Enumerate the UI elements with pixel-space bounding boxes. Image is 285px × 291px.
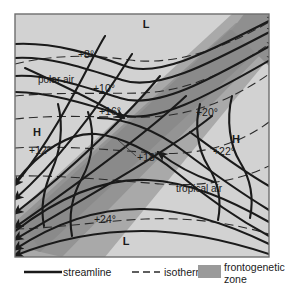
isotherm-24-label: +24°	[94, 213, 116, 225]
isotherm-label: +18	[137, 151, 155, 163]
legend-frontogenetic-label-line2: zone	[224, 273, 247, 285]
legend-frontogenetic-label-line1: frontogenetic	[224, 261, 285, 273]
isotherm-12-label: +12°	[29, 144, 51, 156]
legend-item-frontogenetic-zone: frontogenetic zone	[198, 261, 285, 285]
isotherm-label: +12°	[29, 144, 51, 156]
diagram-canvas: +8° +10° +16° +12° +18 +20° +22°	[0, 0, 285, 291]
isotherm-label: +8°	[78, 48, 94, 60]
frontogenesis-diagram: +8° +10° +16° +12° +18 +20° +22°	[0, 0, 285, 291]
high-left-label: H	[33, 126, 41, 138]
isotherm-8-label: +8°	[78, 48, 94, 60]
tropical-air-label: tropical air	[176, 183, 223, 194]
legend-item-isotherm: isotherm	[132, 266, 205, 278]
isotherm-18-label: +18	[137, 151, 155, 163]
isotherm-label: +16°	[99, 105, 121, 117]
isotherm-22-label: +22°	[213, 145, 235, 157]
legend: streamline isotherm frontogenetic zone	[24, 261, 285, 285]
isotherm-16-label: +16°	[99, 105, 121, 117]
legend-streamline-label: streamline	[63, 266, 112, 278]
isotherm-label: +20°	[196, 106, 218, 118]
low-top-label: L	[143, 18, 150, 30]
isotherm-label: +24°	[94, 213, 116, 225]
isotherm-10-label: +10°	[93, 82, 115, 94]
legend-item-streamline: streamline	[24, 266, 112, 278]
low-bottom-label: L	[123, 235, 130, 247]
isotherm-label: +10°	[93, 82, 115, 94]
frontogenetic-zone-swatch-icon	[198, 265, 221, 278]
high-right-label: H	[232, 133, 240, 145]
isotherm-20-label: +20°	[196, 106, 218, 118]
isotherm-label: +22°	[213, 145, 235, 157]
polar-air-label: polar air	[38, 74, 75, 85]
